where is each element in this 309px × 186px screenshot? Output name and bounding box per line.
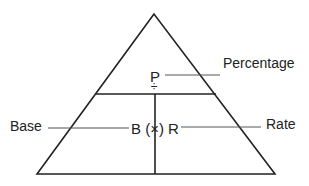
label-percentage: Percentage — [223, 55, 295, 71]
label-rate: Rate — [266, 116, 296, 132]
label-base: Base — [10, 118, 42, 134]
symbol-b-times-r: B (×) R — [131, 120, 179, 137]
divide-symbol: ÷ — [151, 80, 158, 94]
percentage-triangle-diagram: P ÷ B (×) R Percentage Base Rate — [0, 0, 309, 186]
